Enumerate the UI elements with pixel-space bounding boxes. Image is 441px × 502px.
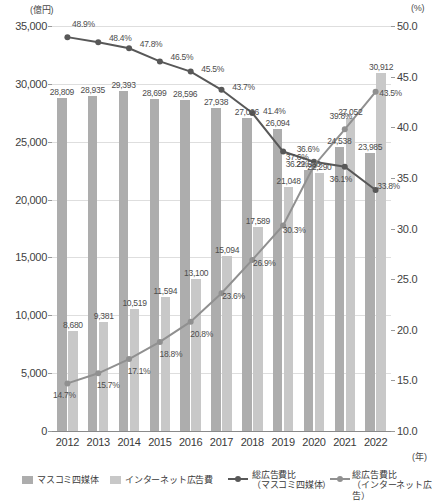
line-point-mass-2014[interactable]: [126, 45, 132, 51]
line-point-net-2012[interactable]: [64, 380, 70, 386]
legend-label-mass-line-1: 総広告費比: [252, 470, 296, 480]
right-axis-tickmark: [391, 229, 395, 230]
line-point-net-2016[interactable]: [188, 319, 194, 325]
percent-label: 26.9%: [253, 258, 276, 268]
legend-label-net-bar: インターネット広告費: [125, 475, 213, 485]
chart-legend: マスコミ四媒体 インターネット広告費 総広告費比 （マスコミ四媒体） 総広告費比…: [0, 469, 441, 502]
bar-value-label: 27,026: [235, 107, 259, 117]
percent-label: 30.3%: [283, 225, 306, 235]
bar-value-label: 28,596: [173, 89, 197, 99]
x-axis-label-2015: 2015: [148, 436, 171, 448]
bar-value-label: 22,290: [307, 162, 331, 172]
bar-value-label: 26,094: [266, 118, 290, 128]
plot-area: 35,00030,00025,00020,00015,00010,0005,00…: [52, 26, 391, 431]
percent-label: 20.8%: [190, 329, 213, 339]
left-axis-tick-label: 30,000: [15, 78, 47, 90]
legend-swatch-net-icon: [110, 476, 121, 484]
line-point-mass-2013[interactable]: [95, 39, 101, 45]
legend-item-mass-bar[interactable]: マスコミ四媒体: [22, 475, 99, 485]
right-axis-tickmark: [391, 26, 395, 27]
left-axis-tick-label: 5,000: [21, 367, 47, 379]
x-axis-label-2016: 2016: [179, 436, 202, 448]
bar-value-label: 15,094: [215, 245, 239, 255]
percent-label: 39.8%: [329, 111, 352, 121]
right-axis-tickmark: [391, 431, 395, 432]
percent-label: 43.5%: [379, 88, 402, 98]
percent-label: 36.6%: [297, 144, 320, 154]
right-axis-tickmark: [391, 279, 395, 280]
bar-value-label: 27,938: [204, 97, 228, 107]
x-axis-label-2019: 2019: [271, 436, 294, 448]
bar-value-label: 21,048: [277, 176, 301, 186]
line-point-mass-2021[interactable]: [342, 164, 348, 170]
percent-label: 14.7%: [53, 390, 76, 400]
percent-label: 45.5%: [201, 64, 224, 74]
right-axis-unit: (%): [411, 3, 424, 13]
line-point-mass-2017[interactable]: [219, 87, 225, 93]
bar-value-label: 13,100: [184, 268, 208, 278]
x-axis-label-2022: 2022: [364, 436, 387, 448]
percent-label: 15.7%: [97, 380, 120, 390]
chart-root: (億円) (%) 35,00030,00025,00020,00015,0001…: [0, 0, 441, 502]
legend-label-mass-line: 総広告費比 （マスコミ四媒体）: [252, 470, 331, 491]
line-point-net-2015[interactable]: [157, 339, 163, 345]
bar-value-label: 23,985: [358, 142, 382, 152]
bar-value-label: 30,912: [369, 62, 393, 72]
legend-item-net-line[interactable]: 総広告費比 （インターネット広告）: [330, 470, 441, 501]
percent-label: 23.6%: [222, 291, 245, 301]
legend-line-marker-net-icon: [330, 474, 348, 483]
x-axis-label-2017: 2017: [210, 436, 233, 448]
legend-label-net-line-2: （インターネット広告）: [352, 480, 431, 500]
right-axis-tickmark: [391, 330, 395, 331]
bar-value-label: 29,393: [111, 80, 135, 90]
x-axis-line: [52, 431, 391, 432]
bar-value-label: 28,699: [142, 88, 166, 98]
x-axis-label-2020: 2020: [302, 436, 325, 448]
right-axis-tick-label: 40.0: [397, 121, 417, 133]
legend-item-mass-line[interactable]: 総広告費比 （マスコミ四媒体）: [228, 470, 331, 491]
x-axis-label-2021: 2021: [333, 436, 356, 448]
bar-value-label: 28,809: [50, 87, 74, 97]
percent-label: 47.8%: [140, 39, 163, 49]
bar-value-label: 11,594: [154, 286, 178, 296]
line-point-mass-2012[interactable]: [64, 34, 70, 40]
percent-label: 17.1%: [128, 366, 151, 376]
bar-value-label: 10,519: [122, 298, 146, 308]
bar-value-label: 9,381: [94, 311, 114, 321]
legend-label-net-line-1: 総広告費比: [352, 470, 396, 480]
right-axis-tickmark: [391, 178, 395, 179]
percent-label: 33.8%: [377, 181, 400, 191]
line-point-mass-2015[interactable]: [157, 58, 163, 64]
year-unit-label: (年): [412, 450, 427, 463]
x-axis-label-2012: 2012: [56, 436, 79, 448]
line-point-net-2013[interactable]: [95, 370, 101, 376]
line-point-net-2022[interactable]: [373, 89, 379, 95]
percent-label: 41.4%: [263, 106, 286, 116]
left-axis-tickmark: [48, 431, 52, 432]
line-point-mass-2016[interactable]: [188, 69, 194, 75]
x-axis-label-2013: 2013: [87, 436, 110, 448]
right-axis-tick-label: 10.0: [397, 425, 417, 437]
right-axis-tick-label: 20.0: [397, 324, 417, 336]
percent-label: 48.4%: [109, 33, 132, 43]
right-axis-tick-label: 15.0: [397, 374, 417, 386]
percent-label: 48.9%: [72, 19, 95, 29]
legend-label-mass-bar: マスコミ四媒体: [37, 475, 99, 485]
percent-label: 46.5%: [171, 52, 194, 62]
left-axis-tick-label: 0: [41, 425, 47, 437]
left-axis-tick-label: 35,000: [15, 20, 47, 32]
right-axis-tick-label: 25.0: [397, 273, 417, 285]
bar-value-label: 28,935: [81, 85, 105, 95]
left-axis-tick-label: 25,000: [15, 136, 47, 148]
left-axis-tick-label: 15,000: [15, 251, 47, 263]
left-axis-unit: (億円): [30, 3, 53, 16]
bar-value-label: 8,680: [63, 320, 83, 330]
legend-item-net-bar[interactable]: インターネット広告費: [110, 475, 213, 485]
legend-label-mass-line-2: （マスコミ四媒体）: [252, 480, 331, 490]
line-point-net-2021[interactable]: [342, 126, 348, 132]
right-axis-tick-label: 30.0: [397, 223, 417, 235]
left-axis-tick-label: 10,000: [15, 309, 47, 321]
line-point-net-2014[interactable]: [126, 356, 132, 362]
legend-swatch-mass-icon: [22, 476, 33, 484]
legend-line-marker-mass-icon: [228, 474, 248, 483]
